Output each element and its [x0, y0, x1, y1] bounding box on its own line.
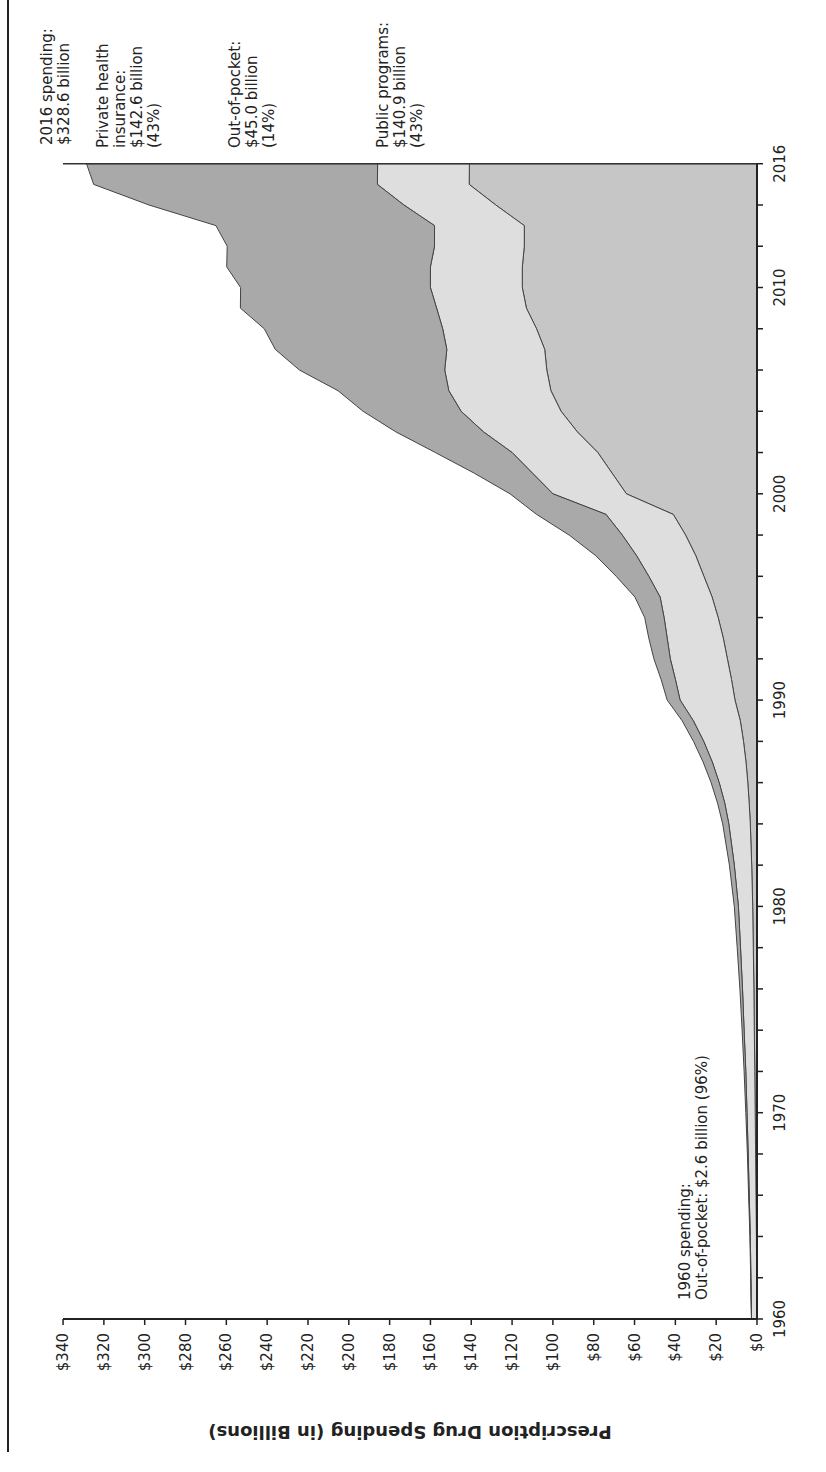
value-tick-label: $280: [177, 1333, 195, 1371]
value-tick-label: $320: [95, 1333, 113, 1371]
value-tick-label: $0: [748, 1333, 766, 1352]
value-tick-label: $120: [503, 1333, 521, 1371]
value-tick-label: $260: [217, 1333, 235, 1371]
value-tick-label: $300: [136, 1333, 154, 1371]
public-programs-2016-annotation: (43%): [408, 103, 426, 148]
out-of-pocket-2016-annotation: (14%): [260, 103, 278, 148]
value-tick-label: $160: [421, 1333, 439, 1371]
private-insurance-2016-annotation: insurance:: [111, 70, 129, 148]
private-insurance-2016-annotation: $142.6 billion: [128, 46, 146, 148]
value-tick-label: $100: [544, 1333, 562, 1371]
year-tick-label: 2010: [771, 268, 789, 306]
value-tick-label: $340: [54, 1333, 72, 1371]
spending-1960-annotation: 1960 spending:: [676, 1183, 694, 1300]
year-tick-label: 1970: [771, 1094, 789, 1132]
public-programs-2016-annotation: Public programs:: [374, 22, 392, 148]
private-insurance-2016-annotation: (43%): [145, 103, 163, 148]
year-tick-label: 2016: [771, 145, 789, 183]
year-tick-label: 1980: [771, 887, 789, 925]
out-of-pocket-2016-annotation: Out-of-pocket:: [226, 41, 244, 148]
stacked-area-chart: 1960197019801990200020102016$0$20$40$60$…: [0, 0, 826, 1472]
value-tick-label: $60: [626, 1333, 644, 1362]
year-tick-label: 1990: [771, 681, 789, 719]
value-tick-label: $200: [340, 1333, 358, 1371]
value-tick-label: $40: [666, 1333, 684, 1362]
out-of-pocket-2016-annotation: $45.0 billion: [243, 55, 261, 148]
value-tick-label: $80: [585, 1333, 603, 1362]
value-tick-label: $180: [381, 1333, 399, 1371]
value-tick-label: $20: [707, 1333, 725, 1362]
private-insurance-2016-annotation: Private health: [94, 43, 112, 148]
year-tick-label: 2000: [771, 475, 789, 513]
value-tick-label: $220: [299, 1333, 317, 1371]
value-tick-label: $240: [258, 1333, 276, 1371]
total-2016-annotation: $328.6 billion: [55, 43, 73, 145]
chart-areas: [87, 164, 758, 1319]
public-programs-2016-annotation: $140.9 billion: [391, 46, 409, 148]
spending-1960-annotation: Out-of-pocket: $2.6 billion (96%): [693, 1055, 711, 1300]
value-tick-label: $140: [462, 1333, 480, 1371]
y-axis-title: Prescription Drug Spending (in Billions): [208, 1422, 612, 1443]
year-tick-label: 1960: [771, 1300, 789, 1338]
total-2016-annotation: 2016 spending:: [38, 28, 56, 145]
